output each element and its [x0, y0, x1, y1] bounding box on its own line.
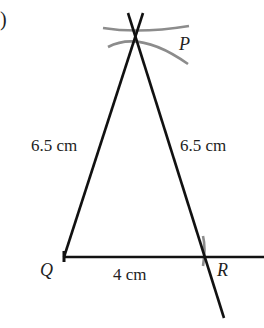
part-label: ) [0, 8, 7, 31]
side-pq [64, 13, 143, 257]
length-label-pr: 6.5 cm [180, 136, 226, 155]
length-label-pq: 6.5 cm [31, 136, 77, 155]
point-label-q: Q [40, 260, 53, 280]
triangle-construction-diagram: ) P Q R 6.5 cm 6.5 cm 4 cm [0, 0, 264, 328]
construction-arc-from-r [108, 41, 188, 64]
point-label-p: P [178, 34, 190, 54]
point-label-r: R [216, 260, 228, 280]
construction-arc-from-q [103, 26, 189, 31]
length-label-qr: 4 cm [113, 265, 147, 284]
